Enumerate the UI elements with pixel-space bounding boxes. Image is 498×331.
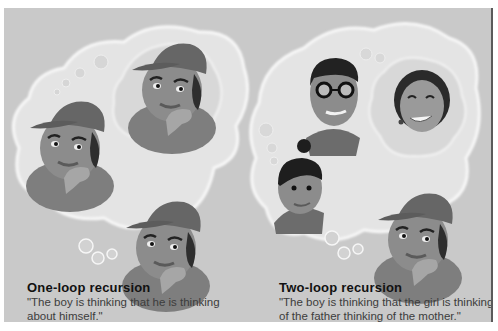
illustration-panel: One-loop recursion "The boy is thinking … <box>4 8 493 322</box>
caption-quote: "The boy is thinking that the girl is th… <box>279 295 493 322</box>
recursion-illustration <box>4 8 491 322</box>
caption-two-loop: Two-loop recursion "The boy is thinking … <box>279 280 493 322</box>
caption-title: Two-loop recursion <box>279 280 493 295</box>
caption-title: One-loop recursion <box>27 280 247 295</box>
father-figure <box>306 58 360 156</box>
caption-one-loop: One-loop recursion "The boy is thinking … <box>27 280 247 322</box>
caption-quote: "The boy is thinking that he is thinking… <box>27 295 247 322</box>
